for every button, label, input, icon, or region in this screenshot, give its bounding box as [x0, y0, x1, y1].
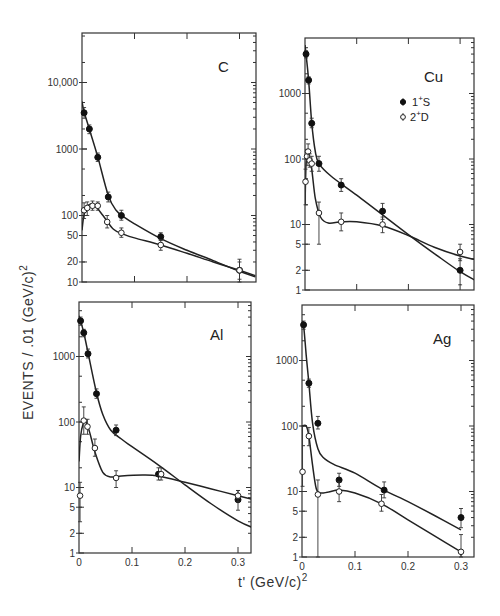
open-circle-icon [401, 115, 406, 120]
y-tick-label: 100 [284, 154, 301, 165]
data-point-1s [303, 51, 309, 57]
panel-cu: 125101001000Cu [279, 38, 476, 296]
y-tick-label: 5 [295, 239, 301, 250]
x-tick-label: 0.3 [231, 557, 245, 568]
y-tick-label: 5 [292, 506, 298, 517]
data-point-2d [338, 219, 344, 225]
y-axis-title: EVENTS / .01 (GeV/c)2 [18, 265, 36, 420]
data-point-1s [158, 234, 164, 240]
fit-curve-1S [82, 101, 255, 276]
data-point-1s [113, 427, 119, 433]
svg-text:2+D: 2+D [410, 109, 429, 123]
x-tick-label: 0.2 [401, 561, 415, 572]
data-point-2d [77, 493, 83, 499]
data-point-1s [81, 330, 87, 336]
fit-curve-2D [79, 421, 254, 500]
y-tick-label: 2 [295, 265, 301, 276]
data-point-2d [315, 492, 321, 498]
y-tick-label: 2 [292, 532, 298, 543]
y-tick-label: 100 [61, 210, 78, 221]
y-tick-label: 1 [292, 552, 298, 563]
panel-label: Cu [424, 68, 443, 85]
y-tick-label: 1000 [53, 351, 76, 362]
data-point-2d [81, 418, 87, 424]
data-point-2d [306, 433, 312, 439]
data-point-2d [158, 471, 164, 477]
data-point-2d [92, 445, 98, 451]
y-tick-label: 1 [295, 285, 301, 296]
plot-frame [82, 33, 256, 282]
data-point-1s [309, 120, 315, 126]
data-point-2d [458, 549, 464, 555]
data-point-1s [78, 318, 84, 324]
y-tick-label: 5 [69, 502, 75, 513]
data-point-1s [306, 380, 312, 386]
data-point-2d [104, 219, 110, 225]
data-point-1s [338, 182, 344, 188]
data-point-1s [93, 391, 99, 397]
y-tick-label: 10 [290, 219, 302, 230]
legend-item-2d: 2+D [401, 109, 429, 123]
data-point-1s [118, 213, 124, 219]
y-tick-label: 1000 [279, 88, 302, 99]
data-point-2d [457, 249, 463, 255]
data-point-2d [237, 267, 243, 273]
data-point-1s [95, 154, 101, 160]
data-point-1s [380, 208, 386, 214]
data-point-2d [158, 242, 164, 248]
y-tick-label: 10 [67, 277, 79, 288]
legend-item-1s: 1+S [400, 94, 430, 108]
panel-c: 102050100100010,000C [47, 33, 256, 288]
y-tick-label: 100 [58, 417, 75, 428]
x-tick-label: 0 [76, 557, 82, 568]
data-point-2d [113, 475, 119, 481]
data-point-1s [381, 487, 387, 493]
data-point-1s [306, 77, 312, 83]
data-point-1s [86, 126, 92, 132]
filled-circle-icon [400, 99, 405, 104]
data-point-2d [235, 493, 241, 499]
y-tick-label: 10 [287, 486, 299, 497]
y-tick-label: 10,000 [47, 77, 78, 88]
data-point-1s [316, 161, 322, 167]
data-point-2d [300, 469, 306, 475]
fit-curve-1S [305, 45, 476, 280]
fit-curve-2D [82, 204, 255, 276]
data-point-1s [301, 322, 307, 328]
data-point-2d [85, 424, 91, 430]
panel-ag: 12510100100000.10.20.3Ag [276, 305, 474, 572]
y-tick-label: 100 [281, 421, 298, 432]
data-point-2d [309, 161, 315, 167]
data-point-1s [81, 110, 87, 116]
data-point-2d [336, 489, 342, 495]
panel-al: 12510100100000.10.20.3Al [53, 302, 254, 568]
y-tick-label: 10 [64, 482, 76, 493]
y-tick-label: 50 [67, 230, 79, 241]
x-tick-label: 0.2 [178, 557, 192, 568]
fit-curve-1S [79, 316, 254, 528]
data-point-1s [458, 515, 464, 521]
data-point-2d [119, 230, 125, 236]
panel-label: C [218, 58, 229, 75]
y-tick-label: 1000 [56, 144, 79, 155]
data-point-2d [303, 179, 309, 185]
data-point-1s [85, 351, 91, 357]
panel-label: Ag [433, 330, 451, 347]
x-tick-label: 0.1 [125, 557, 139, 568]
panel-label: Al [210, 326, 223, 343]
x-tick-label: 0.1 [348, 561, 362, 572]
y-tick-label: 1 [69, 548, 75, 559]
y-tick-label: 1000 [276, 355, 299, 366]
svg-text:1+S: 1+S [412, 94, 430, 108]
data-point-2d [316, 210, 322, 216]
plot-frame [79, 302, 251, 553]
data-point-2d [95, 203, 101, 209]
fit-curve-2D [305, 153, 476, 260]
figure-canvas: 102050100100010,000C 125101001000Cu 1251… [0, 0, 500, 616]
y-tick-label: 20 [67, 256, 79, 267]
data-point-1s [105, 194, 111, 200]
x-tick-label: 0.3 [454, 561, 468, 572]
legend: 1+S 2+D [400, 94, 430, 123]
data-point-2d [380, 222, 386, 228]
data-point-1s [457, 267, 463, 273]
